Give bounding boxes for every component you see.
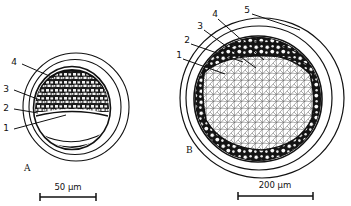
panel-a-label-2: 2: [3, 103, 9, 113]
panel-a-scale-label: 50 µm: [54, 182, 81, 192]
panel-b-letter: B: [186, 145, 193, 155]
panel-b-label-3: 3: [197, 21, 203, 31]
panel-b-label-4: 4: [212, 9, 218, 19]
panel-b-label-5: 5: [244, 5, 250, 15]
panel-a-label-1: 1: [3, 123, 9, 133]
panel-b-scale-label: 200 µm: [259, 180, 292, 190]
panel-b-label-2: 2: [184, 35, 190, 45]
panel-a-letter: A: [23, 163, 31, 173]
panel-b-cell-layers: [195, 37, 321, 161]
panel-b-label-1: 1: [176, 50, 182, 60]
panel-a-label-4: 4: [11, 57, 17, 67]
embryo-figure-svg: 4 3 2 1 A 50 µm: [0, 0, 351, 206]
panel-a-label-3: 3: [3, 84, 9, 94]
figure-container: 4 3 2 1 A 50 µm: [0, 0, 351, 206]
